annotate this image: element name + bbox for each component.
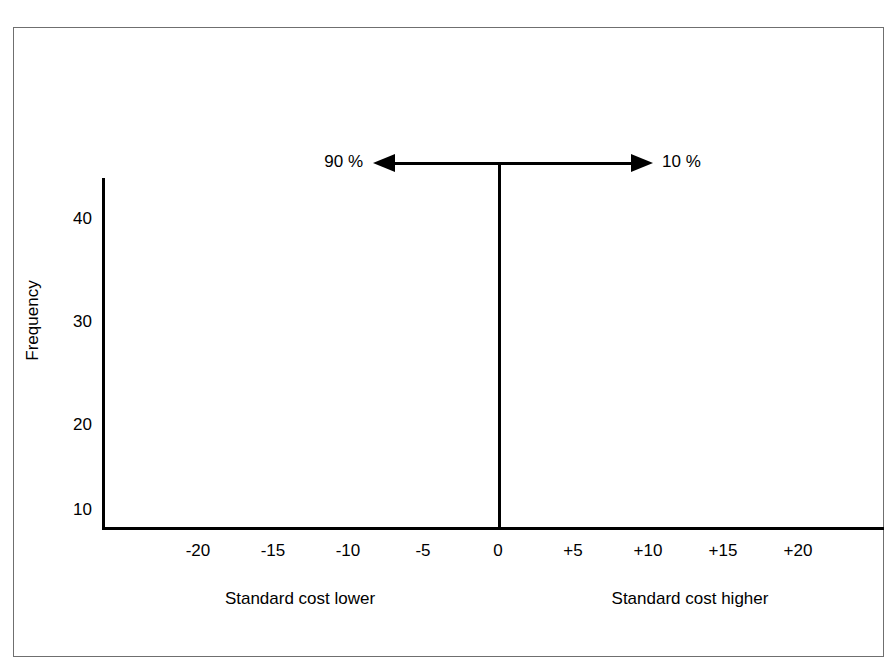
arrow-head-left-icon bbox=[373, 154, 395, 172]
x-tick-label: +15 bbox=[693, 541, 753, 560]
y-tick-label: 10 bbox=[46, 501, 92, 518]
y-axis-tick-labels: 40 30 20 10 bbox=[46, 0, 92, 670]
x-axis-line bbox=[102, 527, 884, 530]
y-axis-title: Frequency bbox=[24, 261, 41, 381]
y-axis-line bbox=[102, 178, 105, 530]
x-tick-label: -5 bbox=[393, 541, 453, 560]
annotation-arrow-shaft bbox=[382, 162, 644, 165]
zero-divider-line bbox=[498, 163, 501, 529]
x-axis-tick-labels: -20 -15 -10 -5 0 +5 +10 +15 +20 bbox=[0, 541, 894, 563]
x-tick-label: 0 bbox=[468, 541, 528, 560]
annotation-label-left: 90 % bbox=[289, 152, 363, 172]
x-tick-label: -15 bbox=[243, 541, 303, 560]
arrow-head-right-icon bbox=[631, 154, 653, 172]
x-tick-label: -20 bbox=[168, 541, 228, 560]
caption-standard-cost-higher: Standard cost higher bbox=[540, 588, 840, 609]
y-tick-label: 40 bbox=[46, 210, 92, 227]
y-tick-label: 20 bbox=[46, 416, 92, 433]
x-tick-label: -10 bbox=[318, 541, 378, 560]
chart-figure: 90 % 10 % Frequency 40 30 20 10 -20 -15 … bbox=[0, 0, 894, 670]
x-axis-region-captions: Standard cost lower Standard cost higher bbox=[0, 588, 894, 612]
y-tick-label: 30 bbox=[46, 313, 92, 330]
annotation-label-right: 10 % bbox=[662, 152, 736, 172]
x-tick-label: +5 bbox=[543, 541, 603, 560]
caption-standard-cost-lower: Standard cost lower bbox=[150, 588, 450, 609]
x-tick-label: +20 bbox=[768, 541, 828, 560]
x-tick-label: +10 bbox=[618, 541, 678, 560]
